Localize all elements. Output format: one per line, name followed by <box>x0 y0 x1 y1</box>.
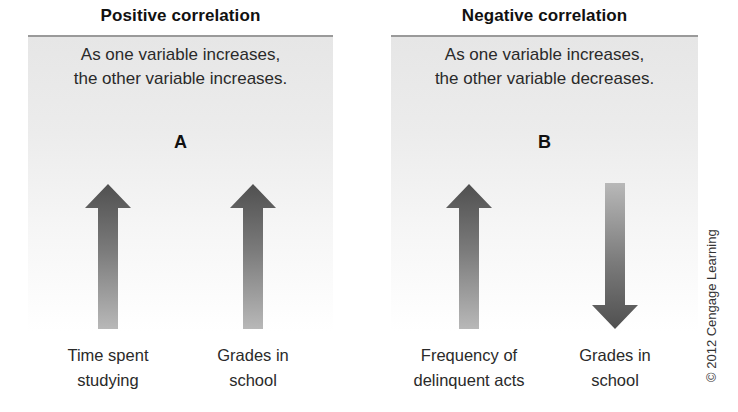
label-line-1: Grades in <box>540 343 690 368</box>
label-line-2: studying <box>33 368 183 393</box>
label-line-2: school <box>178 368 328 393</box>
variable-label-grades-in-school: Grades in school <box>540 343 690 393</box>
label-line-2: delinquent acts <box>394 368 544 393</box>
panel-letter: B <box>391 132 698 153</box>
panel-title: Negative correlation <box>391 6 698 26</box>
label-line-1: Time spent <box>33 343 183 368</box>
description-line-2: the other variable decreases. <box>391 67 698 91</box>
arrow-up-icon <box>230 184 276 330</box>
label-line-2: school <box>540 368 690 393</box>
panel-negative-correlation: Negative correlation As one variable inc… <box>391 0 698 412</box>
arrow-up-icon <box>85 184 131 330</box>
panel-description: As one variable increases, the other var… <box>28 43 333 91</box>
description-line-1: As one variable increases, <box>28 43 333 67</box>
panel-letter: A <box>28 132 333 153</box>
variable-label-time-spent-studying: Time spent studying <box>33 343 183 393</box>
description-line-2: the other variable increases. <box>28 67 333 91</box>
variable-label-frequency-of-delinquent-acts: Frequency of delinquent acts <box>394 343 544 393</box>
arrow-up-icon <box>446 184 492 330</box>
label-line-1: Frequency of <box>394 343 544 368</box>
panel-title: Positive correlation <box>28 6 333 26</box>
description-line-1: As one variable increases, <box>391 43 698 67</box>
copyright-notice: © 2012 Cengage Learning <box>704 229 719 382</box>
variable-label-grades-in-school: Grades in school <box>178 343 328 393</box>
panel-positive-correlation: Positive correlation As one variable inc… <box>28 0 333 412</box>
arrow-down-icon <box>592 183 638 329</box>
label-line-1: Grades in <box>178 343 328 368</box>
panel-description: As one variable increases, the other var… <box>391 43 698 91</box>
